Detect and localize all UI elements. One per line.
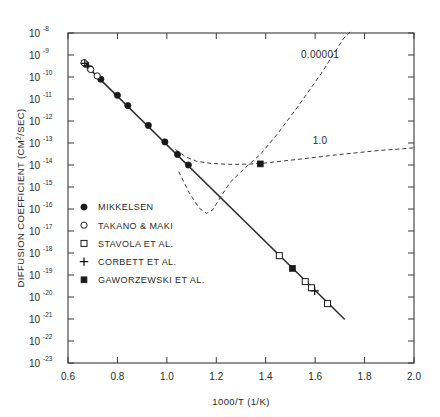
legend-label: GAWORZEWSKI ET AL. xyxy=(98,275,205,285)
legend-marker-filled-circle xyxy=(81,204,87,210)
x-tick-label: 1.6 xyxy=(308,371,322,382)
y-tick-exponent: -20 xyxy=(43,289,53,296)
x-tick-label: 1.0 xyxy=(160,371,174,382)
data-point-gaworzewski-et-al- xyxy=(290,266,296,272)
data-point-mikkelsen xyxy=(114,92,120,98)
y-tick-exponent: -13 xyxy=(43,135,53,142)
y-tick-exponent: -12 xyxy=(43,113,53,120)
x-tick-label: 0.8 xyxy=(110,371,124,382)
data-point-stavola-et-al- xyxy=(276,253,282,259)
y-tick-exponent: -17 xyxy=(43,223,53,230)
data-point-stavola-et-al- xyxy=(325,301,331,307)
annotation-trap-limited-high-conc: 1.0 xyxy=(313,135,328,146)
x-tick-label: 0.6 xyxy=(61,371,75,382)
legend-marker-open-circle xyxy=(81,222,87,228)
data-point-gaworzewski-et-al- xyxy=(257,161,263,167)
arrhenius-diffusion-chart: 10-810-910-1010-1110-1210-1310-1410-1510… xyxy=(0,0,440,417)
y-tick-exponent: -10 xyxy=(43,69,53,76)
legend-label: STAVOLA ET AL. xyxy=(98,239,173,249)
data-point-takano-maki xyxy=(94,73,100,79)
data-point-mikkelsen xyxy=(162,139,168,145)
data-point-stavola-et-al- xyxy=(308,285,314,291)
y-tick-exponent: -18 xyxy=(43,245,53,252)
data-point-mikkelsen xyxy=(174,151,180,157)
x-tick-label: 1.2 xyxy=(209,371,223,382)
data-point-mikkelsen xyxy=(125,103,131,109)
data-point-takano-maki xyxy=(88,66,94,72)
y-tick-exponent: -14 xyxy=(43,157,53,164)
data-point-takano-maki xyxy=(81,60,87,66)
legend-label: CORBETT ET AL. xyxy=(98,257,177,267)
y-tick-exponent: -23 xyxy=(43,355,53,362)
data-point-mikkelsen xyxy=(145,122,151,128)
data-point-mikkelsen xyxy=(185,162,191,168)
y-tick-exponent: -22 xyxy=(43,333,53,340)
y-tick-exponent: -9 xyxy=(43,47,49,54)
y-tick-exponent: -16 xyxy=(43,201,53,208)
data-point-stavola-et-al- xyxy=(302,279,308,285)
y-tick-exponent: -15 xyxy=(43,179,53,186)
legend-label: TAKANO & MAKI xyxy=(98,221,173,231)
x-tick-label: 2.0 xyxy=(407,371,421,382)
annotation-trap-limited-low-conc: 0.00001 xyxy=(301,49,339,60)
y-tick-exponent: -8 xyxy=(43,25,49,32)
y-tick-exponent: -11 xyxy=(43,91,52,98)
x-tick-label: 1.4 xyxy=(259,371,273,382)
legend-label: MIKKELSEN xyxy=(98,202,154,212)
y-tick-exponent: -21 xyxy=(43,311,53,318)
y-axis-title: DIFFUSION COEFFICIENT (CM2/SEC) xyxy=(15,109,27,288)
x-axis-title: 1000/T (1/K) xyxy=(212,396,269,407)
chart-background xyxy=(0,0,440,417)
legend-marker-filled-square xyxy=(81,277,87,283)
y-tick-exponent: -19 xyxy=(43,267,53,274)
legend-marker-open-square xyxy=(81,240,87,246)
x-tick-label: 1.8 xyxy=(358,371,372,382)
